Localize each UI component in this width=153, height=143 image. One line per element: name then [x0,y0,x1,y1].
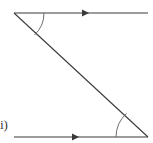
geometry-figure: ii) [0,0,153,143]
geometry-canvas [0,0,153,143]
transversal-line [14,13,148,137]
part-label: ii) [0,118,8,132]
top-angle-arc [35,13,45,35]
bottom-line-arrowhead-icon [72,134,79,141]
top-line-arrowhead-icon [82,10,89,17]
bottom-angle-arc [116,114,127,138]
